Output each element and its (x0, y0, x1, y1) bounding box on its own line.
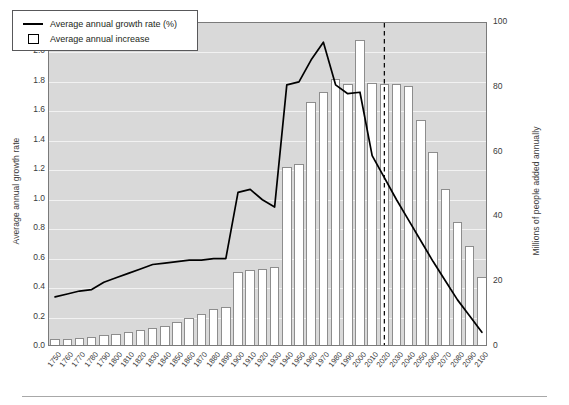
plot-area (48, 22, 487, 346)
left-tick-label: 0.2 (5, 311, 45, 321)
legend-label-annual-increase: Average annual increase (46, 34, 149, 44)
chart-legend: Average annual growth rate (%) Average a… (12, 10, 198, 51)
footer-divider (22, 396, 547, 397)
legend-item-annual-increase: Average annual increase (20, 31, 190, 46)
right-tick-label: 40 (493, 210, 533, 220)
population-growth-chart: Average annual growth rate Millions of p… (0, 0, 569, 405)
left-tick-label: 1.6 (5, 104, 45, 114)
left-tick-label: 1.2 (5, 163, 45, 173)
right-tick-label: 80 (493, 81, 533, 91)
left-tick-label: 0.4 (5, 281, 45, 291)
right-tick-label: 100 (493, 16, 533, 26)
left-tick-label: 0.0 (5, 340, 45, 350)
legend-item-growth-rate: Average annual growth rate (%) (20, 16, 190, 31)
left-tick-label: 1.0 (5, 193, 45, 203)
right-tick-label: 0 (493, 340, 533, 350)
legend-label-growth-rate: Average annual growth rate (%) (46, 19, 177, 29)
left-tick-label: 1.8 (5, 75, 45, 85)
right-axis-title: Millions of people added annually (531, 91, 541, 291)
legend-box-key-icon (20, 34, 46, 44)
projection-divider-dashed-line (49, 23, 486, 345)
left-tick-label: 0.8 (5, 222, 45, 232)
left-tick-label: 1.4 (5, 134, 45, 144)
legend-line-key-icon (20, 23, 46, 25)
right-tick-label: 20 (493, 275, 533, 285)
left-tick-label: 0.6 (5, 252, 45, 262)
right-tick-label: 60 (493, 146, 533, 156)
